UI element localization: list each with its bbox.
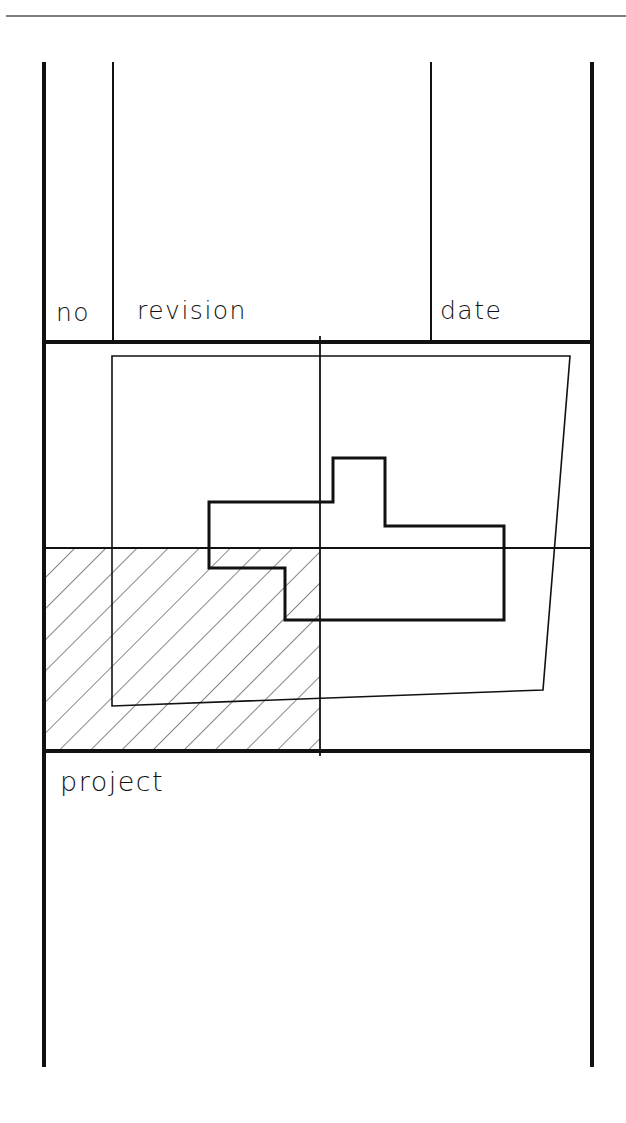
title-block-drawing [0, 0, 626, 1123]
title-block-sheet: no revision date project [0, 0, 626, 1123]
project-label: project [60, 768, 164, 795]
revision-header-revision: revision [137, 298, 247, 323]
hatched-quadrant [44, 548, 320, 751]
revision-header-date: date [440, 298, 502, 323]
revision-header-no: no [56, 300, 90, 325]
